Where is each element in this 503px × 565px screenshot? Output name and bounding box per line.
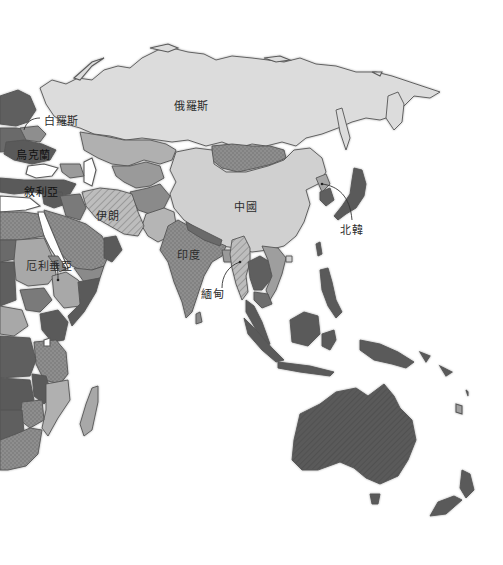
label-india: 印度 bbox=[177, 246, 200, 262]
label-myanmar: 緬甸 bbox=[201, 285, 224, 301]
label-eritrea: 厄利垂亞 bbox=[26, 257, 72, 273]
label-iran: 伊朗 bbox=[96, 207, 119, 223]
country-indonesia bbox=[244, 318, 284, 362]
label-ukraine: 烏克蘭 bbox=[16, 146, 51, 162]
label-china: 中國 bbox=[234, 198, 257, 214]
label-north-korea: 北韓 bbox=[340, 221, 363, 237]
country-myanmar bbox=[230, 236, 250, 300]
country-russia bbox=[40, 48, 440, 148]
country-new-zealand bbox=[460, 470, 474, 498]
label-syria: 敘利亞 bbox=[24, 183, 59, 199]
country-australia bbox=[292, 384, 416, 484]
map-canvas bbox=[0, 0, 503, 565]
label-belarus: 白羅斯 bbox=[44, 112, 79, 128]
country-japan bbox=[334, 168, 366, 220]
country-south-korea bbox=[320, 188, 334, 206]
country-egypt bbox=[0, 212, 44, 240]
country-madagascar bbox=[80, 386, 98, 436]
country-philippines bbox=[320, 268, 342, 318]
country-papua-new-guinea bbox=[360, 340, 414, 368]
label-russia: 俄羅斯 bbox=[174, 97, 209, 113]
